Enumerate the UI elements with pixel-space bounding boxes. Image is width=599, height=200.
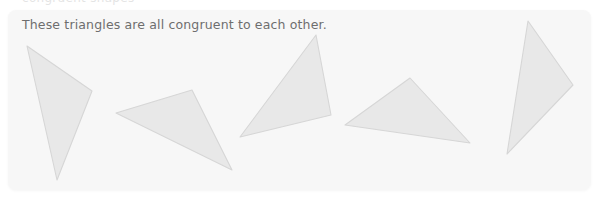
triangle-5 bbox=[507, 21, 573, 154]
clipped-text-above-card: congruent shapes bbox=[22, 0, 282, 5]
triangle-3 bbox=[240, 35, 331, 137]
triangle-figure-canvas bbox=[8, 10, 591, 190]
triangle-4 bbox=[345, 78, 470, 143]
triangle-1 bbox=[27, 46, 92, 180]
figure-card: These triangles are all congruent to eac… bbox=[8, 10, 591, 190]
triangle-2 bbox=[116, 90, 232, 170]
